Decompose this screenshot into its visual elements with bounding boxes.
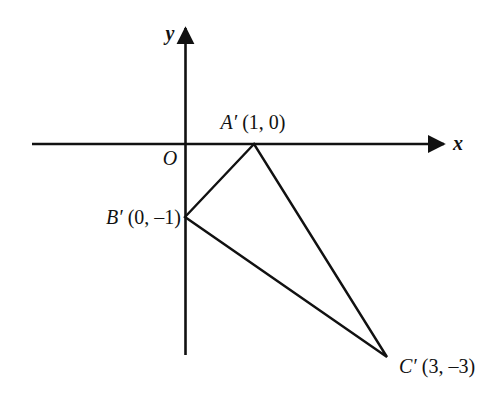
y-axis-label: y bbox=[166, 23, 175, 43]
point-label-b-prime: B′(0, –1) bbox=[106, 207, 181, 227]
point-coords-a-prime: (1, 0) bbox=[242, 111, 285, 133]
point-label-a-prime: A′(1, 0) bbox=[221, 112, 286, 132]
origin-label: O bbox=[163, 148, 177, 168]
triangle-a-prime-b-prime-c-prime bbox=[185, 144, 387, 357]
point-label-c-prime: C′(3, –3) bbox=[399, 356, 475, 376]
point-coords-c-prime: (3, –3) bbox=[422, 355, 475, 377]
point-coords-b-prime: (0, –1) bbox=[128, 206, 181, 228]
x-axis-label: x bbox=[453, 133, 463, 153]
point-letter-a-prime: A′ bbox=[221, 111, 238, 133]
figure-canvas bbox=[0, 0, 502, 393]
point-letter-c-prime: C′ bbox=[399, 355, 417, 377]
point-letter-b-prime: B′ bbox=[106, 206, 123, 228]
coordinate-plane-figure: y x O A′(1, 0) B′(0, –1) C′(3, –3) bbox=[0, 0, 502, 393]
